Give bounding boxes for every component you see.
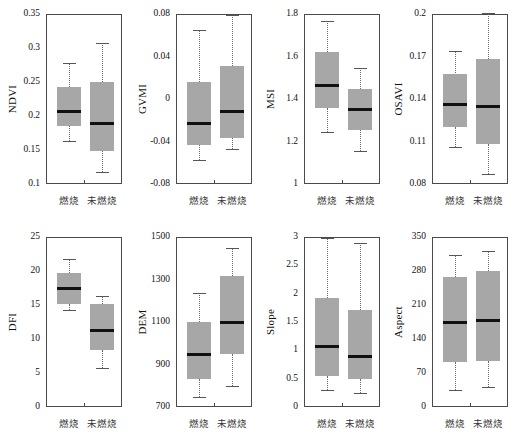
median-line bbox=[443, 321, 467, 324]
y-tick-label: 280 bbox=[412, 266, 426, 276]
median-line bbox=[348, 108, 372, 111]
box-burned bbox=[187, 322, 211, 379]
whisker-cap-lower bbox=[449, 390, 462, 391]
y-tick-label: 0.08 bbox=[409, 179, 426, 189]
whisker-upper bbox=[199, 30, 201, 82]
whisker-cap-lower bbox=[96, 368, 109, 369]
whisker-upper bbox=[102, 296, 104, 304]
whisker-upper bbox=[232, 248, 234, 277]
whisker-lower bbox=[199, 379, 201, 397]
y-tick-label: 3 bbox=[293, 232, 298, 242]
whisker-cap-lower bbox=[96, 172, 109, 173]
whisker-cap-lower bbox=[63, 310, 76, 311]
whisker-upper bbox=[455, 51, 457, 74]
whisker-cap-lower bbox=[482, 174, 495, 175]
whisker-upper bbox=[360, 243, 362, 310]
y-tick-label: 10 bbox=[31, 334, 41, 344]
whisker-upper bbox=[327, 238, 329, 298]
whisker-lower bbox=[455, 362, 457, 389]
y-tick-label: 0 bbox=[293, 402, 298, 412]
whisker-lower bbox=[455, 127, 457, 147]
box-burned bbox=[187, 82, 211, 145]
whisker-lower bbox=[488, 144, 490, 174]
y-axis-title: OSAVI bbox=[392, 82, 404, 115]
y-tick-label: 0 bbox=[35, 402, 40, 412]
whisker-cap-upper bbox=[226, 248, 239, 249]
x-tick-mark bbox=[470, 180, 471, 184]
y-axis-title: Aspect bbox=[392, 306, 404, 338]
y-tick-label: 25 bbox=[31, 232, 41, 242]
median-line bbox=[476, 319, 500, 322]
y-tick-label: -0.04 bbox=[150, 137, 170, 147]
box-unburned bbox=[90, 82, 114, 151]
x-tick-mark bbox=[84, 403, 85, 407]
median-line bbox=[57, 287, 81, 290]
y-tick-label: 0.35 bbox=[23, 9, 40, 19]
median-line bbox=[443, 103, 467, 106]
panel-dfi: DFI2520151050燃烧未燃烧 bbox=[0, 223, 130, 446]
y-tick-label: 900 bbox=[156, 360, 170, 370]
y-tick-label: -0.08 bbox=[150, 179, 170, 189]
whisker-cap-lower bbox=[226, 149, 239, 150]
whisker-lower bbox=[69, 126, 71, 141]
x-tick-label-unburned: 未燃烧 bbox=[217, 193, 247, 207]
x-tick-label-unburned: 未燃烧 bbox=[87, 416, 117, 430]
y-tick-label: 5 bbox=[35, 368, 40, 378]
whisker-upper bbox=[69, 259, 71, 273]
box-unburned bbox=[476, 271, 500, 361]
whisker-cap-lower bbox=[482, 387, 495, 388]
y-tick-label: 0.5 bbox=[286, 374, 298, 384]
y-tick-label: 0.15 bbox=[23, 145, 40, 155]
x-tick-label-burned: 燃烧 bbox=[59, 193, 79, 207]
y-tick-label: 0.17 bbox=[409, 52, 426, 62]
panel-msi: MSI1.81.61.41.21燃烧未燃烧 bbox=[258, 0, 388, 223]
median-line bbox=[90, 329, 114, 332]
x-tick-label-unburned: 未燃烧 bbox=[345, 193, 375, 207]
whisker-lower bbox=[232, 138, 234, 149]
whisker-cap-lower bbox=[321, 132, 334, 133]
whisker-cap-upper bbox=[449, 255, 462, 256]
whisker-upper bbox=[488, 251, 490, 271]
y-tick-label: 0.14 bbox=[409, 94, 426, 104]
y-axis-title: GVMI bbox=[136, 84, 148, 114]
y-axis-title: Slope bbox=[264, 309, 276, 335]
panel-dem: DEM150013001100900700燃烧未燃烧 bbox=[130, 223, 260, 446]
x-tick-mark bbox=[84, 180, 85, 184]
median-line bbox=[187, 122, 211, 125]
x-tick-label-burned: 燃烧 bbox=[445, 193, 465, 207]
whisker-cap-upper bbox=[63, 63, 76, 64]
whisker-cap-upper bbox=[96, 43, 109, 44]
whisker-cap-upper bbox=[321, 21, 334, 22]
panel-aspect: Aspect350280210140700燃烧未燃烧 bbox=[386, 223, 516, 446]
y-tick-label: 0 bbox=[165, 94, 170, 104]
x-tick-label-burned: 燃烧 bbox=[317, 193, 337, 207]
box-unburned bbox=[348, 310, 372, 379]
x-tick-mark bbox=[470, 403, 471, 407]
whisker-upper bbox=[199, 293, 201, 322]
y-tick-label: 70 bbox=[417, 368, 427, 378]
whisker-upper bbox=[69, 63, 71, 87]
box-unburned bbox=[220, 276, 244, 354]
whisker-upper bbox=[360, 68, 362, 89]
whisker-cap-upper bbox=[482, 251, 495, 252]
y-tick-label: 0.04 bbox=[153, 52, 170, 62]
x-tick-label-burned: 燃烧 bbox=[189, 416, 209, 430]
x-tick-mark bbox=[214, 403, 215, 407]
median-line bbox=[348, 355, 372, 358]
y-axis-title: DEM bbox=[136, 309, 148, 334]
whisker-cap-upper bbox=[63, 259, 76, 260]
whisker-cap-lower bbox=[354, 151, 367, 152]
box-unburned bbox=[90, 304, 114, 350]
y-tick-label: 2 bbox=[293, 289, 298, 299]
y-tick-label: 350 bbox=[412, 232, 426, 242]
y-tick-label: 0.2 bbox=[28, 111, 40, 121]
whisker-cap-upper bbox=[96, 296, 109, 297]
whisker-cap-lower bbox=[63, 141, 76, 142]
y-tick-label: 0.11 bbox=[410, 137, 426, 147]
median-line bbox=[315, 84, 339, 87]
y-tick-label: 1300 bbox=[151, 275, 170, 285]
y-tick-label: 1.8 bbox=[286, 9, 298, 19]
y-tick-label: 0.2 bbox=[414, 9, 426, 19]
whisker-cap-lower bbox=[321, 390, 334, 391]
whisker-cap-lower bbox=[449, 147, 462, 148]
